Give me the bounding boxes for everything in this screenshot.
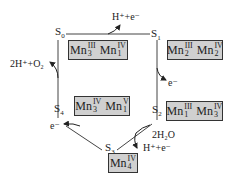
state-label-s0: S0 — [55, 26, 65, 40]
transition-s2-s3-water: 2H₂O — [152, 130, 175, 140]
transition-s0-s1: H⁺+e⁻ — [112, 12, 140, 22]
mn-box-s1: MnIII2 MnIV2 — [167, 40, 223, 60]
mn-box-s2: MnIII1 MnIV3 — [166, 101, 223, 121]
mn-box-s4: MnIV3 MnV1 — [74, 96, 130, 116]
kok-cycle-diagram: S0 S1 S2 S3 S4 MnIII3 MnIV1 MnIII2 MnIV2… — [0, 0, 235, 189]
transition-s4-s0: 2H⁺+O₂ — [10, 59, 44, 69]
transition-s3-s4: e⁻ — [50, 121, 60, 131]
transition-s2-s3-proton: H⁺+e⁻ — [143, 143, 171, 153]
state-label-s2: S2 — [152, 104, 162, 118]
state-label-s1: S1 — [151, 28, 161, 42]
transition-s1-s2: e⁻ — [168, 78, 178, 88]
mn-box-s3: MnIV4 — [108, 153, 138, 173]
mn-box-s0: MnIII3 MnIV1 — [68, 40, 128, 60]
state-label-s4: S4 — [54, 103, 64, 117]
